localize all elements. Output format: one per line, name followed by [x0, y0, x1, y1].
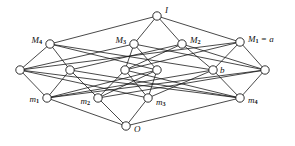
edge-I-M3: [137, 19, 155, 41]
edge-c1-m1: [23, 73, 44, 95]
hasse-diagram-svg: IM4M3M2M1 = abm1m2m3m4O: [0, 0, 295, 146]
node-M2[interactable]: [178, 40, 186, 48]
node-label-M1: M1 = a: [247, 34, 274, 45]
node-c6[interactable]: [261, 66, 269, 74]
node-m3[interactable]: [144, 94, 152, 102]
edge-m2-O: [101, 101, 123, 123]
nodes-group: [16, 12, 269, 130]
edge-c4-m2: [102, 72, 153, 96]
edge-I-M1: [161, 17, 236, 40]
node-c3[interactable]: [121, 66, 129, 74]
node-label-M2: M2: [189, 35, 201, 46]
edge-M2-c2: [74, 45, 178, 69]
node-label-I: I: [164, 5, 169, 15]
node-I[interactable]: [153, 12, 161, 20]
edge-m4-O: [130, 99, 236, 125]
hasse-diagram-figure: IM4M3M2M1 = abm1m2m3m4O: [0, 0, 295, 146]
node-M3[interactable]: [130, 40, 138, 48]
node-c1[interactable]: [16, 66, 24, 74]
node-m4[interactable]: [236, 94, 244, 102]
edge-c6-m4: [243, 73, 262, 95]
edge-M4-c1: [23, 47, 47, 68]
node-b[interactable]: [209, 66, 217, 74]
node-M1[interactable]: [236, 38, 244, 46]
node-O[interactable]: [122, 122, 130, 130]
node-label-m1: m1: [29, 94, 39, 105]
node-m2[interactable]: [94, 94, 102, 102]
edge-c6-m2: [102, 71, 261, 98]
node-label-b: b: [220, 65, 225, 75]
edges-group: [23, 17, 262, 125]
edge-M1-c1: [24, 43, 236, 70]
node-c4[interactable]: [153, 66, 161, 74]
edge-M2-c3: [129, 46, 178, 69]
node-label-m3: m3: [156, 97, 166, 108]
node-label-M4: M4: [30, 35, 42, 46]
edge-M4-c2: [53, 47, 68, 66]
node-c2[interactable]: [66, 66, 74, 74]
node-label-O: O: [134, 124, 141, 134]
node-label-M3: M3: [114, 35, 126, 46]
node-m1[interactable]: [43, 94, 51, 102]
node-label-m4: m4: [248, 95, 258, 106]
node-label-m2: m2: [80, 96, 90, 107]
edge-c2-m1: [50, 73, 68, 95]
edge-m3-O: [129, 101, 146, 122]
node-M4[interactable]: [46, 40, 54, 48]
edge-M2-b: [185, 47, 210, 68]
